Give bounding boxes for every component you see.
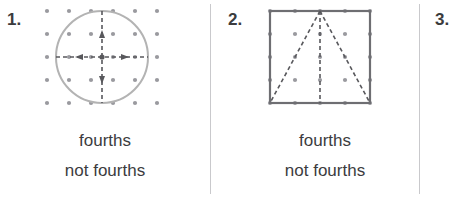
problem-number-1: 1.: [7, 11, 21, 28]
answer-option-fourths[interactable]: fourths: [240, 126, 410, 156]
problem-number-3: 3.: [435, 11, 449, 28]
worksheet-page: 1.: [0, 0, 467, 204]
answer-choices-1: fourths not fourths: [20, 126, 190, 186]
figure-square-fourths: [258, 2, 380, 114]
partition-lines-square: [270, 11, 370, 103]
circle-center-dot: [99, 54, 104, 59]
column-divider-2: [419, 4, 420, 194]
column-divider-1: [210, 4, 211, 194]
figure-circle-fourths: [38, 2, 160, 114]
answer-option-fourths[interactable]: fourths: [20, 126, 190, 156]
problem-number-2: 2.: [228, 11, 242, 28]
answer-choices-2: fourths not fourths: [240, 126, 410, 186]
answer-option-not-fourths[interactable]: not fourths: [20, 156, 190, 186]
answer-option-not-fourths[interactable]: not fourths: [240, 156, 410, 186]
